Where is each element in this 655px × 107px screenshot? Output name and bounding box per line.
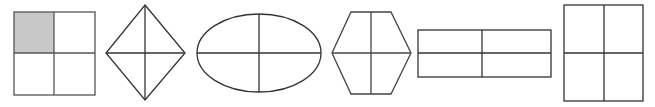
hexagon-shape xyxy=(332,12,411,94)
wide-rectangle-shape xyxy=(418,30,551,77)
square-shape xyxy=(14,12,95,95)
tall-rectangle-shape xyxy=(564,5,643,101)
ellipse-shape xyxy=(197,14,321,92)
fraction-shapes-diagram xyxy=(0,0,655,107)
rhombus-shape xyxy=(106,5,185,100)
shaded-quarter xyxy=(14,12,54,53)
